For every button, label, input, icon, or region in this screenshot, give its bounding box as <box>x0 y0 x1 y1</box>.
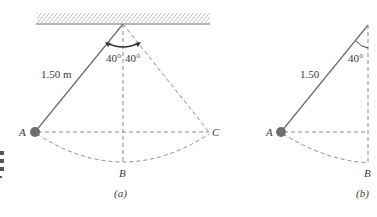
panel-b: 40° 1.50 A B (b) <box>265 25 371 200</box>
cropped-caption-fragment <box>0 159 4 163</box>
panel-a: 40° 40° 1.50 m A C B (a) <box>18 13 220 200</box>
swing-arc-b <box>283 134 368 163</box>
point-b-label: B <box>119 167 126 179</box>
ceiling-hatch <box>37 13 210 23</box>
pendulum-string-b <box>281 25 368 132</box>
angle-arc-b <box>356 41 368 48</box>
length-label: 1.50 m <box>41 68 72 80</box>
cropped-caption-fragment <box>0 151 4 155</box>
cropped-caption-fragment <box>0 167 4 171</box>
pendulum-bob-b <box>276 127 286 137</box>
length-label-b: 1.50 <box>300 68 320 80</box>
point-a-label-b: A <box>265 126 273 138</box>
pendulum-figure: 40° 40° 1.50 m A C B (a) 40° 1.50 A B (b… <box>0 0 377 217</box>
point-a-label: A <box>18 126 26 138</box>
cropped-caption-fragment <box>0 176 2 178</box>
dashed-string-to-c <box>123 24 209 132</box>
point-b-label-b: B <box>364 167 371 179</box>
pendulum-bob <box>30 127 40 137</box>
caption-b: (b) <box>356 187 369 200</box>
caption-a: (a) <box>114 187 127 200</box>
angle-right-label: 40° <box>125 52 140 64</box>
angle-label-b: 40° <box>348 52 363 64</box>
angle-left-label: 40° <box>106 52 121 64</box>
point-c-label: C <box>212 126 220 138</box>
